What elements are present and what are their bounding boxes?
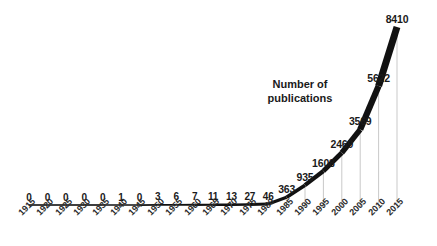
publications-line-chart: 0000010367111327463639351608246935695622… [0,0,437,246]
data-point-label: 8410 [386,13,409,24]
data-point-label: 935 [297,171,314,182]
data-point-label: 5622 [367,72,390,83]
data-point-label: 1608 [312,157,335,168]
data-point-label: 2469 [331,139,354,150]
series-annotation-label: Number of publications [268,78,333,106]
data-point-label: 3569 [349,116,372,127]
data-point-label: 363 [278,183,295,194]
